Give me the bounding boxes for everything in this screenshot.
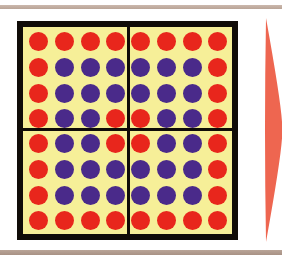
red-dot bbox=[157, 211, 176, 230]
red-dot bbox=[131, 211, 150, 230]
red-dot bbox=[29, 134, 48, 153]
blue-dot bbox=[183, 186, 202, 205]
red-dot bbox=[29, 84, 48, 103]
red-dot bbox=[131, 134, 150, 153]
red-dot bbox=[81, 211, 100, 230]
blue-dot bbox=[183, 160, 202, 179]
red-dot bbox=[106, 109, 125, 128]
red-dot bbox=[29, 211, 48, 230]
blue-dot bbox=[81, 160, 100, 179]
blue-dot bbox=[157, 134, 176, 153]
blue-dot bbox=[81, 186, 100, 205]
red-dot bbox=[131, 109, 150, 128]
red-dot bbox=[208, 84, 227, 103]
red-dot bbox=[183, 211, 202, 230]
red-dot bbox=[55, 211, 74, 230]
blue-dot bbox=[131, 186, 150, 205]
blue-dot bbox=[55, 58, 74, 77]
horizontal-divider bbox=[23, 128, 232, 131]
red-dot bbox=[208, 58, 227, 77]
red-dot bbox=[106, 211, 125, 230]
bottom-frame-bar bbox=[0, 250, 282, 255]
red-dot bbox=[29, 58, 48, 77]
blue-dot bbox=[157, 160, 176, 179]
blue-dot bbox=[106, 160, 125, 179]
red-dot bbox=[208, 32, 227, 51]
blue-dot bbox=[81, 58, 100, 77]
blue-dot bbox=[55, 109, 74, 128]
blue-dot bbox=[157, 58, 176, 77]
blue-dot bbox=[183, 109, 202, 128]
blue-dot bbox=[131, 84, 150, 103]
red-dot bbox=[55, 32, 74, 51]
blue-dot bbox=[183, 58, 202, 77]
blue-dot bbox=[106, 186, 125, 205]
dot-board bbox=[17, 21, 238, 240]
red-dot bbox=[131, 32, 150, 51]
blue-dot bbox=[183, 134, 202, 153]
red-dot bbox=[208, 109, 227, 128]
red-dot bbox=[208, 134, 227, 153]
red-dot bbox=[208, 211, 227, 230]
blue-dot bbox=[55, 84, 74, 103]
blue-dot bbox=[81, 109, 100, 128]
blue-dot bbox=[81, 134, 100, 153]
red-wedge-shape bbox=[262, 18, 282, 242]
red-dot bbox=[81, 32, 100, 51]
blue-dot bbox=[55, 134, 74, 153]
red-dot bbox=[208, 160, 227, 179]
blue-dot bbox=[55, 186, 74, 205]
red-dot bbox=[29, 160, 48, 179]
red-dot bbox=[29, 109, 48, 128]
red-dot bbox=[106, 134, 125, 153]
blue-dot bbox=[106, 84, 125, 103]
red-dot bbox=[208, 186, 227, 205]
red-dot bbox=[29, 186, 48, 205]
top-frame-bar bbox=[0, 5, 282, 9]
blue-dot bbox=[157, 186, 176, 205]
red-dot bbox=[183, 32, 202, 51]
blue-dot bbox=[106, 58, 125, 77]
blue-dot bbox=[157, 84, 176, 103]
blue-dot bbox=[131, 58, 150, 77]
red-dot bbox=[106, 32, 125, 51]
blue-dot bbox=[157, 109, 176, 128]
blue-dot bbox=[81, 84, 100, 103]
blue-dot bbox=[183, 84, 202, 103]
blue-dot bbox=[131, 160, 150, 179]
red-dot bbox=[157, 32, 176, 51]
blue-dot bbox=[55, 160, 74, 179]
red-dot bbox=[29, 32, 48, 51]
